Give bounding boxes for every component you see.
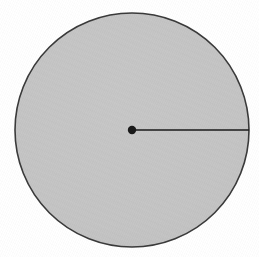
circle-diagram-svg xyxy=(0,0,259,257)
figure-container xyxy=(0,0,259,257)
center-point-dot xyxy=(128,126,136,134)
